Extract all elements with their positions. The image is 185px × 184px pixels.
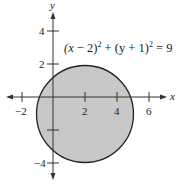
circle-graph-figure: x y −2 2 4 6 4 2 −4 (x − 2)2 + (y + 1)2 …: [0, 0, 185, 184]
eq-part: + (y + 1): [101, 41, 148, 55]
y-axis-label: y: [49, 0, 55, 11]
equation-label: (x − 2)2 + (y + 1)2 = 9: [64, 40, 172, 55]
x-tick-label: 6: [146, 105, 152, 117]
x-axis-label: x: [169, 90, 175, 102]
y-tick-label: −4: [34, 157, 46, 169]
eq-part: = 9: [153, 41, 173, 55]
x-tick-label: −2: [15, 105, 27, 117]
eq-part: − 2): [74, 41, 98, 55]
y-tick-label: 2: [39, 58, 45, 70]
graph-canvas: x y −2 2 4 6 4 2 −4 (x − 2)2 + (y + 1)2 …: [0, 0, 185, 184]
eq-part: (x: [64, 41, 74, 55]
x-axis-left-arrow-icon: [6, 95, 13, 100]
y-axis-down-arrow-icon: [51, 173, 56, 180]
x-tick-label: 4: [114, 105, 120, 117]
x-tick-label: 2: [82, 105, 88, 117]
x-axis-right-arrow-icon: [160, 95, 167, 100]
y-tick-label: 4: [39, 25, 45, 37]
y-axis-up-arrow-icon: [51, 12, 56, 19]
